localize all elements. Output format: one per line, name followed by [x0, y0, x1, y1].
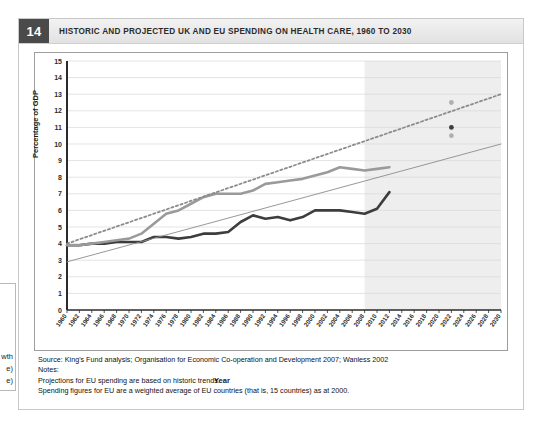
series-line — [67, 167, 389, 245]
y-tick-label: 9 — [58, 157, 62, 164]
figure-number-badge: 14 — [19, 19, 49, 43]
x-tick-label: 1980 — [178, 312, 192, 328]
projection-shaded-region — [365, 61, 501, 310]
x-tick-label: 1968 — [104, 312, 118, 328]
figure-notes: Source: King's Fund analysis; Organisati… — [38, 355, 508, 397]
x-tick-label: 2028 — [476, 312, 490, 328]
x-tick-label: 1988 — [228, 312, 242, 328]
legend-panel-cropped: wth e) e) — [0, 283, 16, 391]
y-tick-label: 1 — [58, 290, 62, 297]
lower-projection-point — [449, 133, 454, 138]
x-tick-label: 1984 — [203, 312, 217, 328]
x-tick-label: 1994 — [265, 312, 279, 328]
legend-fragment-3: e) — [6, 376, 13, 385]
x-tick-label: 2012 — [377, 312, 391, 328]
y-tick-label: 10 — [54, 141, 62, 148]
x-tick-label: 2024 — [451, 312, 465, 328]
figure-title: HISTORIC AND PROJECTED UK AND EU SPENDIN… — [59, 19, 412, 43]
x-tick-label: 1964 — [79, 312, 93, 328]
y-tick-label: 7 — [58, 190, 62, 197]
chart-plot-area: 0123456789101112131415196019621964196619… — [34, 52, 508, 351]
y-tick-label: 6 — [58, 207, 62, 214]
x-tick-label: 1998 — [290, 312, 304, 328]
y-tick-label: 14 — [54, 74, 62, 81]
x-tick-label: 1996 — [277, 312, 291, 328]
x-tick-label: 1966 — [91, 312, 105, 328]
y-tick-label: 15 — [54, 58, 62, 65]
notes-label: Notes: — [38, 365, 508, 375]
x-tick-label: 1982 — [191, 312, 205, 328]
x-tick-label: 2016 — [401, 312, 415, 328]
x-tick-label: 1976 — [153, 312, 167, 328]
x-tick-label: 2022 — [439, 312, 453, 328]
source-line: Source: King's Fund analysis; Organisati… — [38, 355, 508, 365]
y-axis-label: Percentage of GDP — [31, 90, 40, 158]
x-tick-label: 2026 — [463, 312, 477, 328]
legend-fragment-1: wth — [1, 352, 13, 361]
x-tick-label: 2002 — [315, 312, 329, 328]
legend-fragment-2: e) — [6, 364, 13, 373]
x-tick-label: 2020 — [426, 312, 440, 328]
x-tick-label: 2010 — [364, 312, 378, 328]
middle-projection-point — [449, 125, 454, 130]
figure-container: 14 HISTORIC AND PROJECTED UK AND EU SPEN… — [18, 18, 524, 410]
note-line-1: Projections for EU spending are based on… — [38, 376, 508, 386]
x-tick-label: 1970 — [116, 312, 130, 328]
x-tick-label: 1978 — [166, 312, 180, 328]
x-tick-label: 1972 — [129, 312, 143, 328]
line-chart: 0123456789101112131415196019621964196619… — [35, 53, 507, 350]
y-tick-label: 12 — [54, 107, 62, 114]
series-line — [67, 192, 389, 245]
x-tick-label: 1990 — [240, 312, 254, 328]
y-tick-label: 13 — [54, 91, 62, 98]
y-tick-label: 3 — [58, 257, 62, 264]
y-tick-label: 2 — [58, 273, 62, 280]
figure-header: 14 HISTORIC AND PROJECTED UK AND EU SPEN… — [19, 19, 523, 44]
upper-projection-point — [449, 100, 454, 105]
x-tick-label: 2018 — [414, 312, 428, 328]
x-tick-label: 2004 — [327, 312, 341, 328]
y-tick-label: 4 — [58, 240, 62, 247]
x-tick-label: 1986 — [215, 312, 229, 328]
x-tick-label: 1962 — [67, 312, 81, 328]
y-tick-label: 8 — [58, 174, 62, 181]
x-tick-label: 2006 — [339, 312, 353, 328]
x-tick-label: 2008 — [352, 312, 366, 328]
y-tick-label: 5 — [58, 224, 62, 231]
x-tick-label: 2000 — [302, 312, 316, 328]
note-line-2: Spending figures for EU are a weighted a… — [38, 386, 508, 396]
x-tick-label: 1974 — [141, 312, 155, 328]
x-tick-label: 2014 — [389, 312, 403, 328]
x-tick-label: 1960 — [54, 312, 68, 328]
y-tick-label: 11 — [55, 124, 63, 131]
x-tick-label: 1992 — [253, 312, 267, 328]
x-tick-label: 2030 — [488, 312, 502, 328]
